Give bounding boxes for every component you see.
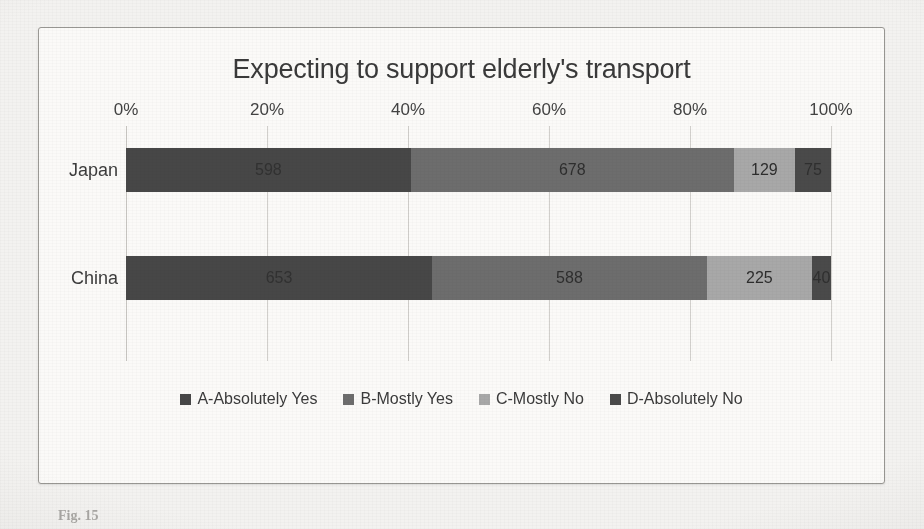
bar-segment-china-d[interactable]: 40 — [812, 256, 831, 300]
x-tick-label: 20% — [250, 100, 284, 120]
gridline-100 — [831, 126, 832, 361]
bar-value-label: 40 — [813, 269, 831, 287]
bar-value-label: 678 — [559, 161, 586, 179]
bar-value-label: 225 — [746, 269, 773, 287]
plot-area: Japan 598 678 129 75 China 653 — [126, 126, 831, 361]
x-axis-tick-labels: 0% 20% 40% 60% 80% 100% — [126, 100, 831, 124]
legend-swatch-icon — [610, 394, 621, 405]
legend-item-a[interactable]: A-Absolutely Yes — [180, 390, 317, 408]
stacked-bar-china[interactable]: 653 588 225 40 — [126, 256, 831, 300]
figure-caption: Fig. 15 — [58, 508, 898, 524]
figure-number: Fig. 15 — [58, 508, 98, 523]
legend-label: A-Absolutely Yes — [197, 390, 317, 408]
x-tick-label: 80% — [673, 100, 707, 120]
chart-title: Expecting to support elderly's transport — [39, 54, 884, 85]
bar-segment-china-b[interactable]: 588 — [432, 256, 707, 300]
legend-item-d[interactable]: D-Absolutely No — [610, 390, 743, 408]
legend-swatch-icon — [343, 394, 354, 405]
legend-item-b[interactable]: B-Mostly Yes — [343, 390, 452, 408]
legend-label: B-Mostly Yes — [360, 390, 452, 408]
bar-segment-china-c[interactable]: 225 — [707, 256, 812, 300]
bar-value-label: 129 — [751, 161, 778, 179]
bar-value-label: 75 — [804, 161, 822, 179]
legend-swatch-icon — [180, 394, 191, 405]
legend-swatch-icon — [479, 394, 490, 405]
legend-label: D-Absolutely No — [627, 390, 743, 408]
x-tick-label: 40% — [391, 100, 425, 120]
bar-segment-japan-b[interactable]: 678 — [411, 148, 734, 192]
bar-segment-china-a[interactable]: 653 — [126, 256, 432, 300]
legend-item-c[interactable]: C-Mostly No — [479, 390, 584, 408]
bar-value-label: 598 — [255, 161, 282, 179]
bar-segment-japan-c[interactable]: 129 — [734, 148, 795, 192]
x-tick-label: 60% — [532, 100, 566, 120]
x-tick-label: 100% — [809, 100, 852, 120]
bar-row-china: China 653 588 225 40 — [126, 256, 831, 300]
bar-value-label: 588 — [556, 269, 583, 287]
bar-row-japan: Japan 598 678 129 75 — [126, 148, 831, 192]
x-tick-label: 0% — [114, 100, 139, 120]
category-label-japan: Japan — [50, 148, 118, 192]
chart-legend: A-Absolutely Yes B-Mostly Yes C-Mostly N… — [39, 390, 884, 408]
stacked-bar-japan[interactable]: 598 678 129 75 — [126, 148, 831, 192]
bar-value-label: 653 — [266, 269, 293, 287]
category-label-china: China — [50, 256, 118, 300]
chart-frame: Expecting to support elderly's transport… — [38, 27, 885, 484]
legend-label: C-Mostly No — [496, 390, 584, 408]
bar-segment-japan-a[interactable]: 598 — [126, 148, 411, 192]
bar-segment-japan-d[interactable]: 75 — [795, 148, 831, 192]
